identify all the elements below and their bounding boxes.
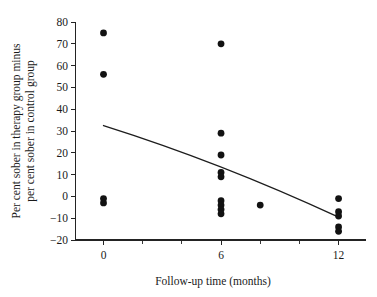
y-axis-tick-label: 80 [57, 16, 69, 28]
data-point [218, 210, 225, 217]
data-point [100, 200, 107, 207]
y-axis-title-line-1: Per cent sober in therapy group minus [10, 43, 23, 219]
data-point [100, 71, 107, 78]
y-axis-title-line-2: per cent sober in control group [24, 60, 37, 202]
data-point [335, 228, 342, 235]
y-axis-tick-label: 60 [57, 60, 69, 72]
data-point [218, 173, 225, 180]
x-axis-title: Follow-up time (months) [155, 275, 271, 288]
data-point [218, 130, 225, 137]
y-axis-tick-label: 50 [57, 81, 69, 93]
x-axis-tick-label: 0 [101, 249, 107, 261]
y-axis-tick-label: 20 [57, 147, 69, 159]
data-point [257, 202, 264, 209]
y-axis-tick-label: 30 [57, 125, 69, 137]
x-axis-tick-label: 6 [218, 249, 224, 261]
y-axis: −20−1001020304050607080 [50, 16, 76, 246]
x-axis-tick-label: 12 [333, 249, 345, 261]
axis-titles: Follow-up time (months)Per cent sober in… [10, 43, 271, 288]
data-point [218, 152, 225, 159]
y-axis-tick-label: 0 [62, 190, 68, 202]
data-point [335, 213, 342, 220]
data-point [100, 30, 107, 37]
data-point [335, 195, 342, 202]
data-point [218, 40, 225, 47]
x-axis: 0612 [76, 240, 366, 261]
y-axis-tick-label: −20 [50, 234, 68, 246]
scatter-plot-figure: −20−1001020304050607080 0612 Follow-up t… [0, 0, 377, 297]
y-axis-tick-label: 40 [57, 103, 69, 115]
y-axis-tick-label: 70 [57, 38, 69, 50]
y-axis-tick-label: −10 [50, 212, 68, 224]
y-axis-tick-label: 10 [57, 169, 69, 181]
chart-canvas: −20−1001020304050607080 0612 Follow-up t… [0, 0, 377, 297]
data-points [100, 30, 342, 235]
